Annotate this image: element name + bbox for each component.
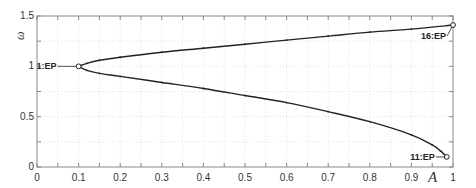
bifurcation-chart: 00.10.20.30.40.50.60.70.80.91 00.511.5 1… (0, 0, 476, 188)
ep-label: 11:EP (410, 152, 435, 162)
y-tick-label: 1.5 (20, 10, 34, 21)
x-tick-labels: 00.10.20.30.40.50.60.70.80.91 (34, 172, 456, 183)
x-tick-label: 0.9 (404, 172, 418, 183)
y-tick-label: 0.5 (20, 111, 34, 122)
x-axis-label: A (427, 169, 438, 185)
lower-branch-curve (79, 66, 447, 157)
x-tick-label: 0.5 (238, 172, 252, 183)
x-tick-label: 0.8 (363, 172, 377, 183)
x-tick-label: 0.6 (280, 172, 294, 183)
grid-lines (37, 16, 453, 167)
x-tick-label: 1 (450, 172, 456, 183)
x-tick-label: 0 (34, 172, 40, 183)
ep-marker (451, 23, 456, 28)
curves (79, 25, 453, 157)
x-tick-label: 0.1 (72, 172, 86, 183)
ep-marker (444, 155, 449, 160)
x-tick-label: 0.4 (196, 172, 210, 183)
x-tick-label: 0.2 (113, 172, 127, 183)
ep-label: 1:EP (37, 61, 57, 71)
x-tick-label: 0.7 (321, 172, 335, 183)
ep-label: 16:EP (421, 31, 446, 41)
y-tick-label: 0 (28, 161, 34, 172)
x-tick-label: 0.3 (155, 172, 169, 183)
y-axis-label: ω (13, 32, 27, 40)
y-tick-label: 1 (28, 60, 34, 71)
ep-marker (76, 64, 81, 69)
